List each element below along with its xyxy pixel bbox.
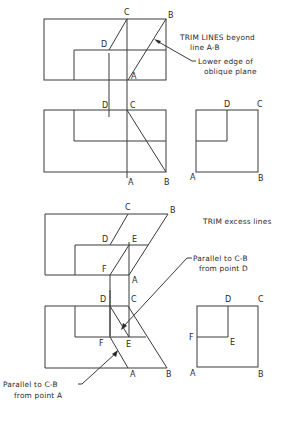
step1-side-view: D C A B xyxy=(190,100,264,183)
edge-d-c xyxy=(109,19,127,50)
step2-side-view: D C F E A B xyxy=(189,295,264,379)
step1-front-view: D C A B xyxy=(44,85,170,187)
annotation-parallel-d-2: from point D xyxy=(199,264,248,273)
point-label-d: D xyxy=(225,295,231,304)
point-label-b: B xyxy=(170,206,176,215)
point-label-f: F xyxy=(189,333,194,342)
inner-outline xyxy=(74,50,166,80)
annotation-parallel-d-1: Parallel to C-B xyxy=(193,254,248,263)
step2-front-view: D C F E A B xyxy=(45,290,172,379)
point-label-a: A xyxy=(190,173,196,182)
point-label-f: F xyxy=(102,265,107,274)
annotation-trim-excess: TRIM excess lines xyxy=(202,217,271,226)
point-label-b: B xyxy=(168,11,174,20)
point-label-a: A xyxy=(128,178,134,187)
annotation-parallel-a-2: from point A xyxy=(14,391,62,400)
point-label-d: D xyxy=(101,40,107,49)
point-label-f: F xyxy=(99,339,104,348)
edge-f-e xyxy=(110,245,129,275)
inner-outline xyxy=(196,110,227,141)
orthographic-drawing: C B D A TRIM LINES beyond line A-B Lower… xyxy=(0,0,293,422)
edge-d-c xyxy=(110,214,128,245)
point-label-c: C xyxy=(258,295,264,304)
point-label-e: E xyxy=(230,338,235,347)
point-label-d: D xyxy=(100,295,106,304)
point-label-b: B xyxy=(258,370,264,379)
annotation-trim-lines-2: line A-B xyxy=(190,43,220,52)
annotation-lower-edge-1: Lower edge of xyxy=(198,57,253,66)
leader-parallel-a xyxy=(78,350,118,384)
point-label-e: E xyxy=(126,340,131,349)
point-label-d: D xyxy=(224,100,230,109)
annotation-trim-lines-1: TRIM LINES beyond xyxy=(179,33,255,42)
inner-outline xyxy=(75,245,148,275)
point-label-c: C xyxy=(130,101,136,110)
inner-outline xyxy=(74,110,166,141)
point-label-e: E xyxy=(132,235,137,244)
point-label-d: D xyxy=(102,101,108,110)
point-label-a: A xyxy=(130,370,136,379)
annotation-parallel-a-1: Parallel to C-B xyxy=(3,380,58,389)
inner-outline xyxy=(197,306,228,337)
step1-top-view: C B D A xyxy=(44,8,174,117)
edge-d-e xyxy=(110,306,129,337)
annotation-lower-edge-2: oblique plane xyxy=(204,67,257,76)
point-label-b: B xyxy=(166,370,172,379)
point-label-c: C xyxy=(131,295,137,304)
point-label-a: A xyxy=(190,369,196,378)
point-label-b: B xyxy=(164,178,170,187)
point-label-b: B xyxy=(258,174,264,183)
point-label-d: D xyxy=(102,235,108,244)
point-label-a: A xyxy=(131,72,137,81)
point-label-c: C xyxy=(125,203,131,212)
point-label-c: C xyxy=(124,8,130,17)
point-label-a: A xyxy=(132,276,138,285)
leader-parallel-d xyxy=(121,258,192,330)
point-label-c: C xyxy=(257,100,263,109)
